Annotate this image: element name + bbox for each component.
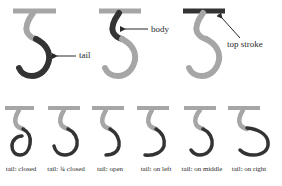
glyph-tail-on-middle: [184, 108, 216, 155]
glyph-body: [196, 13, 206, 39]
glyph-tail-on-right: [228, 108, 268, 155]
callout-label-top-stroke: top stroke: [227, 40, 263, 49]
glyph-drawings: [0, 0, 282, 186]
caption-tail-on-left: tail: on left: [132, 166, 180, 173]
callout-label-tail: tail: [79, 51, 91, 60]
top-stroke-arrow: [222, 18, 240, 38]
glyph-tail-open: [92, 108, 124, 155]
glyph-body: [112, 13, 122, 39]
glyph-body: [26, 13, 36, 39]
glyph-anatomy-figure: tail body top stroke tail: closed tail: …: [0, 0, 282, 186]
glyph-top-stroke-highlight: [183, 11, 225, 76]
glyph-tail: [189, 39, 219, 76]
glyph-tail-closed: [5, 108, 34, 155]
glyph-tail-highlight: [13, 11, 56, 76]
caption-tail-on-middle: tail: on middle: [178, 166, 226, 173]
caption-tail-on-right: tail: on right: [225, 166, 273, 173]
callout-label-body: body: [151, 25, 169, 34]
glyph-tail-on-left: [137, 108, 169, 155]
glyph-tail: [19, 39, 49, 76]
glyph-tail-three-quarter-closed: [48, 108, 80, 155]
glyph-tail: [105, 39, 135, 76]
caption-tail-three-quarter-closed: tail: ¾ closed: [42, 166, 90, 173]
caption-tail-open: tail: open: [86, 166, 134, 173]
glyph-body-highlight: [99, 11, 141, 76]
caption-tail-closed: tail: closed: [0, 166, 45, 173]
